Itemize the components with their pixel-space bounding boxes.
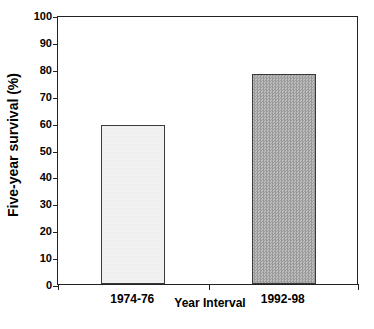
y-axis-tick-label: 100	[24, 11, 52, 22]
x-axis-title: Year Interval	[174, 297, 245, 309]
y-axis-tick-mark	[53, 232, 58, 233]
y-axis-tick-label: 10	[24, 253, 52, 264]
y-axis-tick-label: 80	[24, 64, 52, 75]
y-axis-tick-label: 50	[24, 145, 52, 156]
bar-1974-76	[101, 125, 165, 284]
y-axis-tick-mark	[53, 125, 58, 126]
y-axis-tick-mark	[53, 17, 58, 18]
y-axis-tick-mark	[53, 44, 58, 45]
y-axis-tick-mark	[53, 205, 58, 206]
x-axis-tick-mark	[209, 284, 210, 290]
x-axis-tick-mark	[58, 284, 59, 290]
y-axis-tick-mark	[53, 152, 58, 153]
bar-chart-figure: Five-year survival (%) 01020304050607080…	[0, 0, 374, 329]
bar-1992-98	[252, 74, 316, 284]
x-axis-tick-label: 1992-98	[261, 293, 305, 305]
plot-area	[57, 16, 358, 285]
y-axis-tick-mark	[53, 98, 58, 99]
y-axis-tick-mark	[53, 178, 58, 179]
x-axis-labels: 1974-761992-98 Year Interval	[0, 293, 374, 315]
y-axis-tick-label: 70	[24, 91, 52, 102]
y-axis-tick-label: 40	[24, 172, 52, 183]
y-axis-title: Five-year survival (%)	[6, 73, 20, 217]
x-axis-tick-label: 1974-76	[110, 293, 154, 305]
y-axis-tick-label: 30	[24, 199, 52, 210]
y-axis-tick-mark	[53, 71, 58, 72]
y-axis-tick-label: 20	[24, 226, 52, 237]
x-axis-tick-mark	[358, 284, 359, 290]
y-axis-tick-label: 90	[24, 37, 52, 48]
y-axis-tick-mark	[53, 259, 58, 260]
y-axis-tick-labels: 0102030405060708090100	[22, 0, 52, 329]
y-axis-tick-label: 0	[24, 280, 52, 291]
y-axis-tick-label: 60	[24, 118, 52, 129]
